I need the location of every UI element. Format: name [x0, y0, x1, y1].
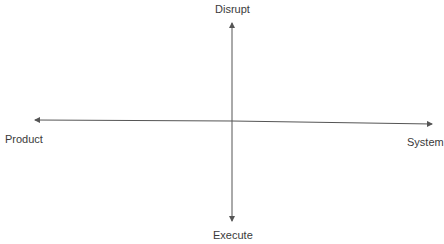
horizontal-axis-right	[232, 121, 432, 124]
horizontal-axis-left	[35, 120, 232, 121]
label-product: Product	[5, 133, 43, 145]
label-disrupt: Disrupt	[215, 3, 250, 15]
label-execute: Execute	[213, 229, 253, 241]
label-system: System	[407, 136, 444, 148]
